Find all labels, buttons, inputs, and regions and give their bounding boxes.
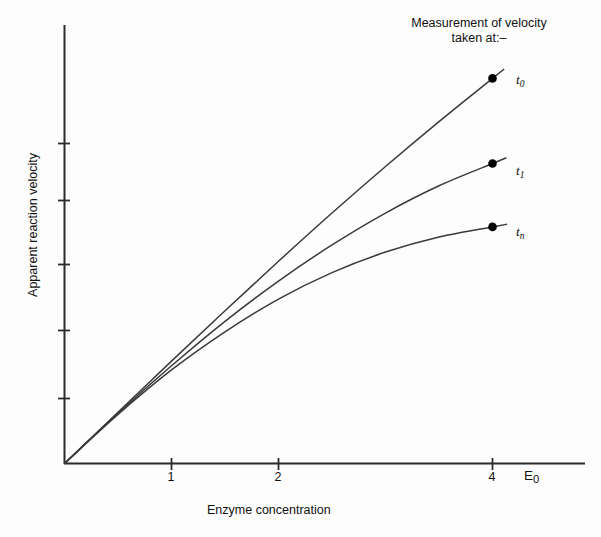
x-axis-variable-symbol: E0 [524,468,539,484]
x-tick-label-1: 1 [168,470,175,485]
axes-group [64,25,585,464]
axis-variable-subscript: 0 [533,473,539,485]
curve-tn [65,224,508,463]
endpoint-marker-t1 [488,159,497,168]
curves-group [65,69,508,464]
x-axis-title: Enzyme concentration [207,503,331,518]
chart-figure: Measurement of velocitytaken at:– Appare… [0,0,601,537]
curve-label-tn-subscript: n [520,231,525,241]
curve-label-t0-subscript: 0 [520,79,525,89]
axis-variable-base: E [524,468,533,483]
endpoint-marker-tn [488,223,497,232]
y-axis-title: Apparent reaction velocity [26,153,41,297]
measurement-annotation: Measurement of velocitytaken at:– [384,16,574,46]
annotation-line-2: taken at:– [452,31,507,45]
chart-plot-area [0,0,601,537]
curve-t1 [65,158,507,464]
endpoint-marker-t0 [488,74,497,83]
curve-label-tn: tn [516,224,525,240]
x-tick-label-4: 4 [489,470,496,485]
curve-label-t1-subscript: 1 [520,170,525,180]
curve-label-t0: t0 [516,72,525,88]
x-tick-label-2: 2 [275,470,282,485]
annotation-line-1: Measurement of velocity [411,16,546,30]
endpoint-markers [488,74,497,231]
curve-label-t1: t1 [516,163,525,179]
